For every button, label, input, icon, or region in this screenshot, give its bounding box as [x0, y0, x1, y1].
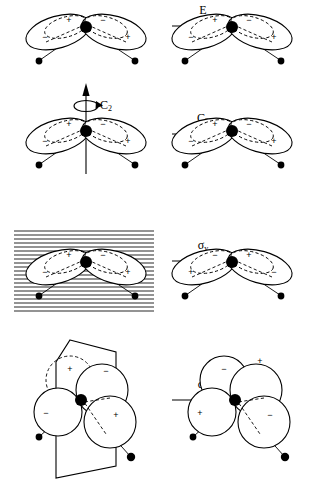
- central-atom: [80, 21, 92, 33]
- orbital-diagram-after-c2: + − − +: [160, 106, 320, 186]
- row-c2: C2 + − − + C2: [0, 78, 321, 183]
- lobe-sign: +: [197, 408, 202, 418]
- lobe-sign: +: [125, 136, 130, 146]
- lobe-sign: −: [100, 15, 105, 25]
- lobe-sign: +: [66, 250, 71, 260]
- orbital-lobe-front-pair: [34, 364, 136, 448]
- terminal-atom-right: [278, 162, 285, 169]
- lobe-lower-left: [188, 388, 236, 436]
- terminal-atom-right: [278, 293, 285, 300]
- lobe-sign: +: [271, 136, 276, 146]
- lobe-sign: −: [42, 267, 47, 277]
- central-atom: [226, 21, 238, 33]
- row-sigma-v-prime: + − − + σv' − + + −: [0, 338, 321, 488]
- row-sigma-v: + − − + σv − + + −: [0, 225, 321, 325]
- central-atom: [226, 125, 238, 137]
- terminal-atom-left: [36, 434, 43, 441]
- orbital-diagram-before-sigma-v-prime: + − − +: [14, 338, 174, 488]
- lobe-sign: +: [257, 356, 262, 366]
- lobe-sign: −: [212, 250, 217, 260]
- row-identity: + − − + E + − − +: [0, 0, 321, 78]
- terminal-atom-left: [182, 162, 189, 169]
- terminal-atom-left: [190, 434, 197, 441]
- lobe-lower-right: [84, 396, 136, 448]
- lobe-sign: −: [267, 410, 272, 420]
- terminal-atom-left: [36, 162, 43, 169]
- lobe-sign: −: [221, 364, 226, 374]
- lobe-sign: −: [100, 250, 105, 260]
- c2-axis-arrowhead: [82, 83, 89, 96]
- lobe-sign: −: [100, 119, 105, 129]
- lobe-sign: −: [271, 267, 276, 277]
- lobe-sign: +: [66, 15, 71, 25]
- lobe-sign: −: [103, 366, 108, 376]
- central-atom: [80, 125, 92, 137]
- terminal-atom-left: [36, 58, 43, 65]
- lobe-sign: −: [246, 15, 251, 25]
- terminal-atom-right: [127, 453, 135, 461]
- central-atom: [80, 256, 92, 268]
- orbital-diagram-before-c2: + − − +: [14, 106, 174, 186]
- lobe-lower-right: [238, 396, 290, 448]
- lobe-sign: +: [125, 267, 130, 277]
- lobe-sign: −: [43, 408, 48, 418]
- central-atom: [229, 394, 241, 406]
- lobe-sign: −: [188, 136, 193, 146]
- terminal-atom-right: [281, 453, 289, 461]
- central-atom: [226, 256, 238, 268]
- lobe-sign: −: [188, 32, 193, 42]
- terminal-atom-left: [182, 293, 189, 300]
- lobe-sign: −: [42, 136, 47, 146]
- orbital-diagram-after-identity: + − − +: [160, 2, 320, 80]
- lobe-sign: +: [271, 32, 276, 42]
- orbital-diagram-before-sigma-v: + − − +: [14, 237, 174, 317]
- terminal-atom-left: [182, 58, 189, 65]
- lobe-sign: +: [67, 364, 72, 374]
- lobe-sign: −: [42, 32, 47, 42]
- terminal-atom-right: [132, 58, 139, 65]
- orbital-diagram-after-sigma-v: − + + −: [160, 237, 320, 317]
- central-atom: [75, 394, 87, 406]
- lobe-sign: +: [125, 32, 130, 42]
- lobe-sign: +: [212, 119, 217, 129]
- lobe-sign: +: [246, 250, 251, 260]
- lobe-sign: +: [66, 119, 71, 129]
- orbital-diagram-after-sigma-v-prime: − + + −: [160, 338, 320, 488]
- terminal-atom-right: [278, 58, 285, 65]
- lobe-sign: −: [246, 119, 251, 129]
- orbital-diagram-before-identity: + − − +: [14, 2, 174, 80]
- lobe-front-lower: [34, 388, 82, 436]
- lobe-sign: +: [188, 267, 193, 277]
- terminal-atom-right: [132, 162, 139, 169]
- terminal-atom-left: [36, 293, 43, 300]
- terminal-atom-right: [132, 293, 139, 300]
- lobe-sign: +: [113, 410, 118, 420]
- lobe-sign: +: [212, 15, 217, 25]
